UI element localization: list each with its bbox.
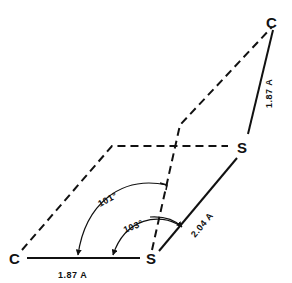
diagonal-magnitude-label: 2.04 A [189,210,215,239]
right-magnitude-label: 1.87 A [264,79,274,108]
node-s-bottom: S [146,250,156,267]
bottom-magnitude-label: 1.87 A [58,270,87,280]
node-s-right: S [237,139,247,156]
angle-label-103: 103° [122,218,145,235]
angle-arc-103-head [150,217,182,227]
angle-label-101: 101° [96,190,119,209]
phasor-diagram: C S S C 1.87 A 2.04 A 1.87 A 101° 103° [0,0,292,283]
angle-arc-101-start [160,183,167,190]
node-c-left: C [9,250,20,267]
node-c-top: C [266,14,277,31]
